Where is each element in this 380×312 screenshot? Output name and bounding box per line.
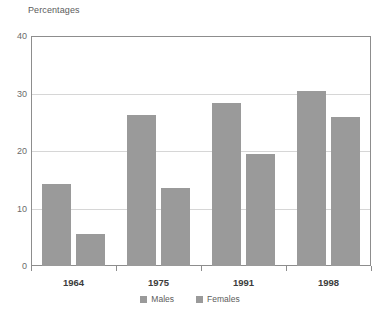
- x-tick-mark-start: [31, 266, 32, 271]
- gridline-30: [32, 94, 370, 95]
- gridline-10: [32, 209, 370, 210]
- legend-label-females: Females: [207, 294, 240, 304]
- legend-swatch-males-icon: [140, 296, 147, 303]
- y-axis-tick-labels: 40 30 20 10 0: [0, 36, 27, 266]
- y-tick-30: 30: [3, 89, 27, 99]
- x-axis-label-1975: 1975: [148, 277, 169, 288]
- legend-item-males: Males: [140, 294, 174, 304]
- y-tick-0: 0: [3, 261, 27, 271]
- legend-label-males: Males: [151, 294, 174, 304]
- chart-legend: Males Females: [0, 294, 380, 304]
- x-axis-label-1991: 1991: [233, 277, 254, 288]
- x-axis: 1964197519911998: [31, 266, 371, 296]
- gridline-20: [32, 151, 370, 152]
- x-axis-label-1998: 1998: [318, 277, 339, 288]
- x-tick-mark-1975: [201, 266, 202, 271]
- legend-swatch-females-icon: [196, 296, 203, 303]
- x-tick-mark-1964: [116, 266, 117, 271]
- x-tick-mark-1998: [371, 266, 372, 271]
- chart-title: Percentages: [28, 5, 80, 15]
- y-tick-20: 20: [3, 146, 27, 156]
- plot-area: [31, 36, 371, 266]
- x-tick-mark-1991: [286, 266, 287, 271]
- legend-item-females: Females: [196, 294, 240, 304]
- percentages-bar-chart: Percentages 40 30 20 10 0 19641975199119…: [0, 0, 380, 312]
- y-tick-40: 40: [3, 31, 27, 41]
- x-axis-label-1964: 1964: [63, 277, 84, 288]
- y-tick-10: 10: [3, 204, 27, 214]
